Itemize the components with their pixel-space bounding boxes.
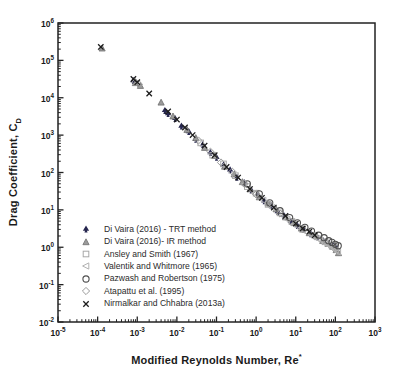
legend-marker-square-icon xyxy=(79,248,93,260)
legend-label: Atapattu et al. (1995) xyxy=(104,287,184,296)
y-axis-label-subscript: D xyxy=(14,118,23,124)
legend-label: Di Vaira (2016) - TRT method xyxy=(104,225,216,234)
y-tick-label-1e6: 106 xyxy=(22,17,54,29)
data-point xyxy=(147,91,152,96)
y-tick-label-1e-2: 10-2 xyxy=(22,316,54,328)
y-tick-label-1e-1: 10-1 xyxy=(22,279,54,291)
legend-row: Di Vaira (2016)- IR method xyxy=(79,235,225,247)
y-axis-label-text: Drag Coefficient, C xyxy=(7,123,19,226)
series-x xyxy=(98,44,317,238)
legend-row: Nirmalkar and Chhabra (2013a) xyxy=(79,297,225,309)
x-tick-label-1e0: 100 xyxy=(250,326,263,338)
x-tick-label-1e-1: 10-1 xyxy=(209,326,224,338)
legend-marker-triangle-left-icon xyxy=(79,260,93,272)
y-axis-label: Drag Coefficient, CD xyxy=(7,118,22,226)
legend-row: Valentik and Whitmore (1965) xyxy=(79,260,225,272)
legend-label: Ansley and Smith (1967) xyxy=(104,250,198,259)
x-tick-label-1e1: 101 xyxy=(289,326,302,338)
legend-row: Pazwash and Robertson (1975) xyxy=(79,273,225,285)
legend-label: Valentik and Whitmore (1965) xyxy=(104,262,217,271)
y-tick-label-1e2: 102 xyxy=(22,167,54,179)
legend-marker-club-icon xyxy=(79,223,93,235)
data-point xyxy=(158,99,164,105)
x-tick-label-1e3: 103 xyxy=(369,326,382,338)
x-axis-label: Modified Reynolds Number, Re* xyxy=(58,352,375,366)
legend-row: Di Vaira (2016) - TRT method xyxy=(79,223,225,235)
plot-area xyxy=(0,0,398,381)
legend-marker-diamond-icon xyxy=(79,285,93,297)
y-tick-label-1e5: 105 xyxy=(22,54,54,66)
legend-marker-triangle-icon xyxy=(79,236,93,248)
x-tick-label-1e-4: 10-4 xyxy=(90,326,105,338)
legend-label: Nirmalkar and Chhabra (2013a) xyxy=(104,299,225,308)
y-tick-label-1e4: 104 xyxy=(22,92,54,104)
y-tick-label-1e3: 103 xyxy=(22,129,54,141)
legend: Di Vaira (2016) - TRT methodDi Vaira (20… xyxy=(79,223,225,310)
legend-label: Di Vaira (2016)- IR method xyxy=(104,237,206,246)
legend-row: Ansley and Smith (1967) xyxy=(79,248,225,260)
series-circle xyxy=(244,181,341,249)
x-tick-label-1e2: 102 xyxy=(329,326,342,338)
x-axis-label-text: Modified Reynolds Number, Re xyxy=(131,354,299,366)
x-tick-label-1e-3: 10-3 xyxy=(130,326,145,338)
y-tick-label-1e0: 100 xyxy=(22,241,54,253)
data-point xyxy=(190,132,195,137)
y-tick-label-1e1: 101 xyxy=(22,204,54,216)
legend-row: Atapattu et al. (1995) xyxy=(79,285,225,297)
figure: Drag Coefficient, CD Modified Reynolds N… xyxy=(0,0,398,381)
x-tick-label-1e-2: 10-2 xyxy=(169,326,184,338)
legend-label: Pazwash and Robertson (1975) xyxy=(104,274,225,283)
legend-marker-circle-icon xyxy=(79,273,93,285)
x-axis-label-superscript: * xyxy=(299,352,302,361)
legend-marker-x-icon xyxy=(79,298,93,310)
